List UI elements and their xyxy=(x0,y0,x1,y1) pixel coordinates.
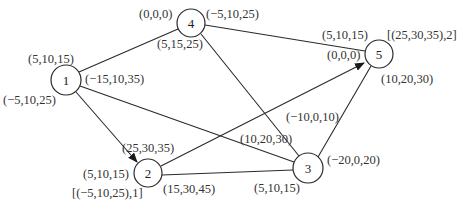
node-4: 4 xyxy=(177,9,205,37)
node-1: 1 xyxy=(51,65,81,95)
label-n4-right: (−5,10,25) xyxy=(206,7,259,21)
label-n5-bottom: (10,20,30) xyxy=(381,72,433,86)
edge-1-3 xyxy=(80,86,294,162)
node-1-label: 1 xyxy=(63,73,70,88)
annotations: (5,10,15) (−15,10,35) (−5,10,25) (0,0,0)… xyxy=(3,7,457,200)
label-n1-right: (−15,10,35) xyxy=(85,72,144,86)
label-n2-left: (5,10,15) xyxy=(83,167,129,181)
label-n2-top: (25,30,35) xyxy=(122,141,174,155)
label-n3-left: (10,20,30) xyxy=(240,132,292,146)
label-n4-left: (0,0,0) xyxy=(139,7,172,21)
label-n2-bottom: [(−5,10,25),1] xyxy=(72,186,143,200)
node-3: 3 xyxy=(293,153,323,183)
label-n5-top: (5,10,15) xyxy=(322,28,368,42)
node-4-label: 4 xyxy=(188,16,195,31)
node-3-label: 3 xyxy=(305,161,312,176)
label-n1-top: (5,10,15) xyxy=(28,52,74,66)
node-2-label: 2 xyxy=(145,166,152,181)
label-n5-right: [(25,30,35),2] xyxy=(387,28,457,42)
label-n4-bottom: (5,15,25) xyxy=(157,37,203,51)
label-n3-top: (−10,0,10) xyxy=(286,110,339,124)
label-n2-right: (15,30,45) xyxy=(163,182,215,196)
label-n5-left: (0,0,0) xyxy=(327,48,360,62)
node-5-label: 5 xyxy=(376,47,383,62)
label-n3-bottom: (5,10,15) xyxy=(254,181,300,195)
node-2: 2 xyxy=(134,159,162,187)
node-5: 5 xyxy=(365,40,393,68)
edge-2-3 xyxy=(162,170,293,175)
network-diagram: 1 2 3 4 5 (5,10,15) (−15,10,35) (−5,10,2… xyxy=(0,0,467,212)
label-n1-bottom-left: (−5,10,25) xyxy=(3,93,56,107)
label-n3-right: (−20,0,20) xyxy=(327,153,380,167)
